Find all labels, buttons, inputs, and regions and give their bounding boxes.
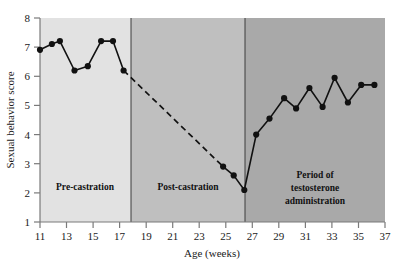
x-tick-label-27: 27 [247, 230, 259, 242]
data-point [253, 132, 259, 138]
x-tick-label-23: 23 [194, 230, 206, 242]
x-tick-label-13: 13 [61, 230, 73, 242]
x-tick-label-19: 19 [141, 230, 153, 242]
x-tick-label-11: 11 [35, 230, 46, 242]
data-point [71, 67, 77, 73]
data-point [306, 85, 312, 91]
x-axis-title: Age (weeks) [184, 247, 240, 260]
data-point [293, 105, 299, 111]
region-label-testosterone-line3: administration [285, 196, 346, 206]
data-point [345, 99, 351, 105]
x-tick-label-17: 17 [114, 230, 126, 242]
line-chart: 8 7 6 5 4 3 2 1 11 [0, 0, 400, 266]
data-point [266, 116, 272, 122]
x-tick-label-35: 35 [353, 230, 365, 242]
y-tick-label-4: 4 [25, 129, 31, 141]
x-tick-label-25: 25 [220, 230, 232, 242]
x-axis-ticks [40, 222, 385, 228]
data-point [98, 38, 104, 44]
x-axis-tick-labels: 11 13 15 17 19 21 23 25 27 29 31 33 35 3… [35, 230, 391, 242]
y-tick-label-6: 6 [25, 70, 31, 82]
data-point [371, 82, 377, 88]
x-tick-label-31: 31 [300, 230, 311, 242]
data-point [110, 38, 116, 44]
data-point [281, 95, 287, 101]
data-point [57, 38, 63, 44]
y-tick-label-7: 7 [25, 41, 31, 53]
data-point [121, 67, 127, 73]
region-label-pre-castration: Pre-castration [56, 182, 115, 192]
x-tick-label-21: 21 [167, 230, 178, 242]
data-point [85, 63, 91, 69]
data-point [358, 82, 364, 88]
data-point [49, 41, 55, 47]
data-point [332, 75, 338, 81]
y-tick-label-3: 3 [25, 158, 31, 170]
data-point [320, 104, 326, 110]
y-tick-label-5: 5 [25, 99, 31, 111]
y-tick-label-1: 1 [25, 216, 31, 228]
data-point [241, 187, 247, 193]
region-label-post-castration: Post-castration [157, 182, 219, 192]
y-axis-title: Sexual behavior score [4, 71, 16, 168]
region-label-testosterone-line1: Period of [296, 170, 334, 180]
data-point [220, 164, 226, 170]
region-label-testosterone-line2: testosterone [291, 183, 339, 193]
x-tick-label-15: 15 [88, 230, 100, 242]
y-tick-label-2: 2 [25, 187, 31, 199]
data-point [231, 172, 237, 178]
chart-figure: 8 7 6 5 4 3 2 1 11 [0, 0, 400, 266]
x-tick-label-37: 37 [380, 230, 392, 242]
x-tick-label-29: 29 [273, 230, 285, 242]
y-axis-tick-labels: 8 7 6 5 4 3 2 1 [25, 12, 31, 228]
data-point [37, 47, 43, 53]
x-tick-label-33: 33 [326, 230, 338, 242]
y-tick-label-8: 8 [25, 12, 31, 24]
